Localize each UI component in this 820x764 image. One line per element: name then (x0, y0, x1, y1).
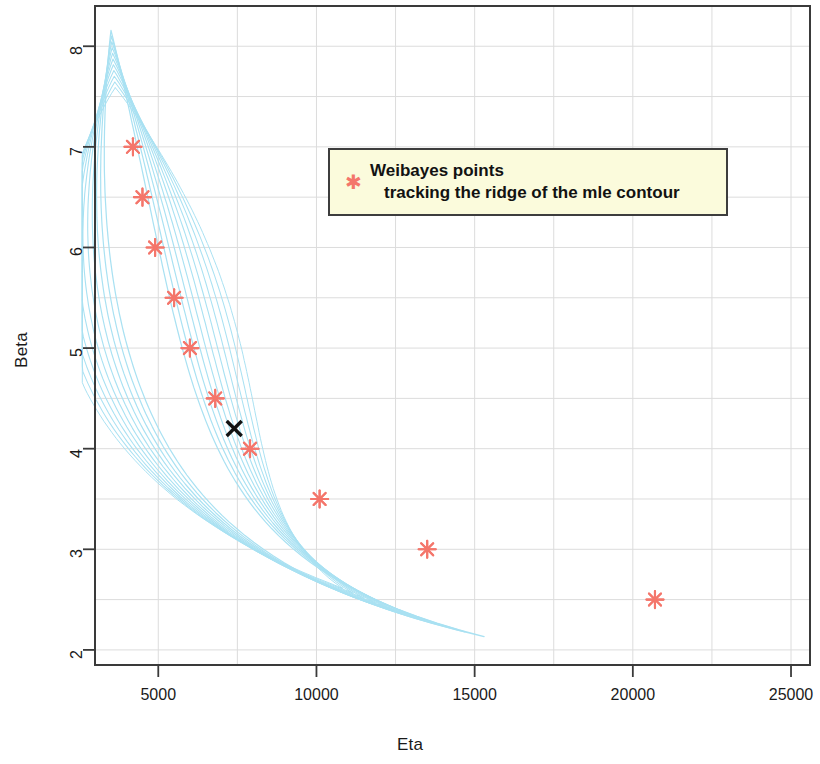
y-tick-label: 4 (68, 449, 86, 489)
weibayes-point (166, 289, 183, 306)
plot-canvas (0, 0, 820, 764)
weibayes-point (242, 440, 259, 457)
y-tick-label: 7 (68, 147, 86, 187)
y-axis-title: Beta (12, 300, 32, 400)
x-axis-title: Eta (0, 735, 820, 755)
weibayes-point (207, 390, 224, 407)
x-tick-label: 10000 (276, 686, 356, 704)
legend-asterisk-icon: ✱ (336, 172, 370, 192)
x-tick-label: 25000 (751, 686, 820, 704)
legend-line-1: Weibayes points (370, 160, 726, 182)
weibayes-point (134, 189, 151, 206)
weibayes-point (419, 541, 436, 558)
y-tick-label: 3 (68, 549, 86, 589)
legend-text: Weibayes points tracking the ridge of th… (370, 160, 726, 204)
x-tick-label: 20000 (593, 686, 673, 704)
weibayes-point (181, 340, 198, 357)
weibayes-point (646, 591, 663, 608)
y-tick-label: 2 (68, 650, 86, 690)
x-tick-label: 5000 (118, 686, 198, 704)
legend: ✱ Weibayes points tracking the ridge of … (328, 148, 728, 216)
weibayes-point (124, 138, 141, 155)
weibayes-point (147, 239, 164, 256)
weibayes-point (311, 490, 328, 507)
y-tick-label: 8 (68, 46, 86, 86)
scatter-plot-figure: Eta Beta 500010000150002000025000 234567… (0, 0, 820, 764)
y-tick-label: 5 (68, 348, 86, 388)
legend-line-2: tracking the ridge of the mle contour (370, 182, 726, 204)
x-tick-label: 15000 (435, 686, 515, 704)
x-axis-ticks (158, 665, 791, 677)
y-tick-label: 6 (68, 247, 86, 287)
